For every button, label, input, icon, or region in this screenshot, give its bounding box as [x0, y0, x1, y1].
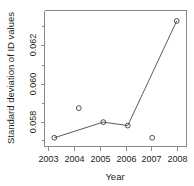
x-tick-label-2004: 2004 — [64, 154, 84, 164]
y-axis-tick-labels: 0.058 0.060 0.062 — [28, 34, 38, 134]
x-tick-label-2003: 2003 — [38, 154, 58, 164]
x-tick-label-2005: 2005 — [90, 154, 110, 164]
data-point-2008[interactable] — [174, 19, 179, 24]
data-series-layer — [52, 19, 179, 141]
x-axis-title: Year — [105, 171, 124, 182]
y-tick-label-0058: 0.058 — [28, 111, 38, 134]
y-tick-label-0060: 0.060 — [28, 73, 38, 96]
line-chart: 0.058 0.060 0.062 Standard deviation of … — [0, 0, 194, 186]
x-axis-tick-labels: 2003 2004 2005 2006 2007 2008 — [38, 154, 187, 164]
x-tick-label-2008: 2008 — [167, 154, 187, 164]
y-axis-title: Standard deviation of ID values — [5, 12, 16, 144]
chart-container: 0.058 0.060 0.062 Standard deviation of … — [0, 0, 194, 186]
series-trend-line — [54, 21, 176, 138]
x-tick-label-2007: 2007 — [141, 154, 161, 164]
plot-frame — [45, 11, 187, 147]
data-point-2004[interactable] — [76, 106, 81, 111]
x-tick-label-2006: 2006 — [116, 154, 136, 164]
y-tick-label-0062: 0.062 — [28, 34, 38, 57]
y-axis-ticks — [41, 27, 45, 141]
data-point-2007[interactable] — [150, 135, 155, 140]
x-axis-ticks — [49, 147, 178, 151]
